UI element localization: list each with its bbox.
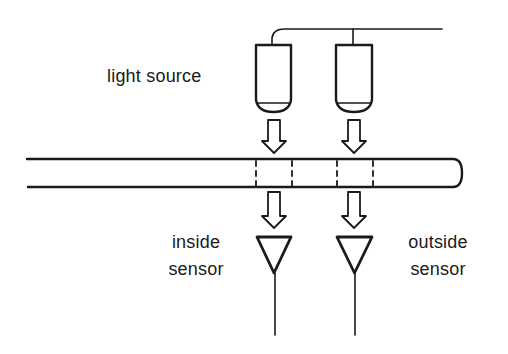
arrow-down-icon: [342, 120, 366, 153]
light-source-label: light source: [107, 63, 201, 90]
measurement-window-inside: [256, 161, 292, 186]
sensor-outside-icon: [337, 237, 372, 273]
inside-sensor-label-line1: inside: [150, 229, 242, 256]
diagram-canvas: light source inside sensor outside senso…: [0, 0, 508, 354]
outside-sensor-label-line1: outside: [393, 229, 483, 256]
tube: [27, 159, 462, 187]
outside-sensor-label: outside sensor: [393, 229, 483, 283]
arrow-down-icon: [262, 120, 286, 153]
inside-sensor-label-line2: sensor: [150, 256, 242, 283]
light-source-inside-icon: [256, 45, 291, 112]
measurement-window-outside: [337, 161, 373, 186]
inside-sensor-label: inside sensor: [150, 229, 242, 283]
light-source-outside-icon: [336, 45, 372, 112]
arrow-down-icon: [262, 192, 286, 228]
schematic-drawing: [0, 0, 508, 354]
sensor-inside-icon: [257, 237, 291, 273]
supply-wire: [272, 29, 442, 45]
outside-sensor-label-line2: sensor: [393, 256, 483, 283]
arrow-down-icon: [342, 192, 366, 228]
